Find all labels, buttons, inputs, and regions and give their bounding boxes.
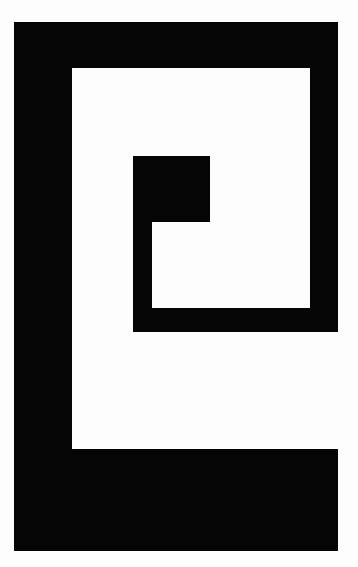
inner-bottom-bar xyxy=(133,308,338,332)
inner-square xyxy=(133,156,210,222)
right-bar xyxy=(310,22,338,332)
bottom-bar xyxy=(14,449,338,551)
